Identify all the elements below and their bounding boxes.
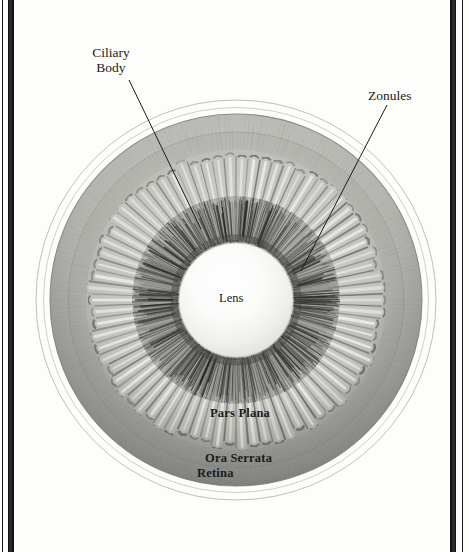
label-ciliary-body: Ciliary Body bbox=[78, 45, 144, 75]
label-pars-plana: Pars Plana bbox=[210, 406, 270, 420]
label-ciliary-body-line2: Body bbox=[78, 60, 144, 75]
label-retina: Retina bbox=[197, 466, 234, 480]
label-ora-serrata: Ora Serrata bbox=[205, 451, 272, 465]
page-canvas: Ciliary Body Zonules Lens Pars Plana Ora… bbox=[0, 0, 469, 552]
label-lens: Lens bbox=[219, 291, 243, 305]
eye-anatomy-figure bbox=[0, 0, 469, 552]
label-zonules: Zonules bbox=[368, 88, 412, 103]
label-ciliary-body-line1: Ciliary bbox=[78, 45, 144, 60]
eye-diagram-svg bbox=[0, 0, 469, 552]
